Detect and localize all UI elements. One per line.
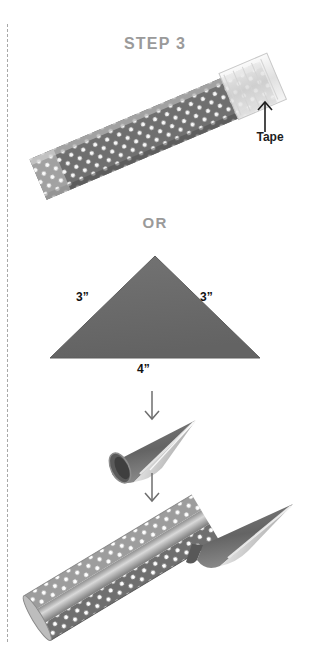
page-title: STEP 3 bbox=[0, 35, 310, 53]
triangle-left-side-label: 3” bbox=[76, 290, 89, 304]
polka-dot-strip bbox=[29, 53, 286, 200]
final-assembly bbox=[20, 495, 293, 643]
attach-arrow-down-icon bbox=[140, 472, 164, 504]
triangle-right-side-label: 3” bbox=[200, 290, 213, 304]
tape-label: Tape bbox=[240, 130, 300, 144]
tape-arrow-up-icon bbox=[254, 99, 276, 133]
fold-arrow-down-icon bbox=[140, 390, 164, 422]
triangle-base-label: 4” bbox=[137, 362, 150, 376]
alternative-label: OR bbox=[0, 214, 310, 231]
diagram-page: STEP 3 OR Tape 3” 3” 4” bbox=[0, 0, 310, 666]
gray-triangle bbox=[50, 256, 260, 358]
